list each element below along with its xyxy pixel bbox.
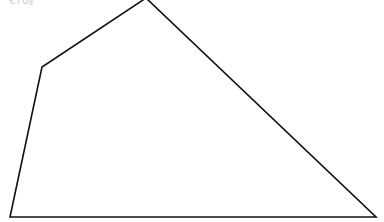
quadrilateral-outline — [10, 0, 376, 217]
diagram-canvas: €70₈ — [0, 0, 384, 222]
quadrilateral-shape — [0, 0, 384, 222]
